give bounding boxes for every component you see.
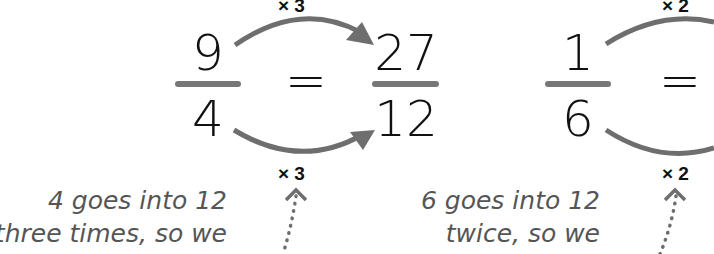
denominator-12: 12 [372, 94, 440, 144]
note-2-line-2: twice, so we [421, 217, 600, 250]
numerator-1: 1 [558, 28, 598, 78]
note-1-line-2: three times, so we [0, 217, 227, 250]
numerator-9: 9 [188, 28, 228, 78]
dotted-pointer-1 [283, 196, 296, 254]
note-1-line-1: 4 goes into 12 [0, 184, 227, 217]
note-2-line-1: 6 goes into 12 [421, 184, 600, 217]
top-multiplier-2: × 2 [662, 0, 689, 15]
equals-sign-2: = [658, 56, 702, 106]
note-1: 4 goes into 12 three times, so we [0, 184, 227, 250]
bottom-multiplier-1: × 3 [278, 164, 305, 183]
denominator-6: 6 [558, 94, 598, 144]
top-multiplier-1: × 3 [278, 0, 305, 15]
dotted-pointer-2 [660, 196, 676, 254]
bottom-arrow-2 [606, 130, 714, 154]
note-2: 6 goes into 12 twice, so we [421, 184, 600, 250]
equivalent-fractions-diagram: × 3 9 4 = 27 12 × 3 4 goes into 12 three… [0, 0, 714, 254]
top-arrow-2 [606, 19, 714, 44]
bottom-arrow-1 [234, 130, 362, 151]
equals-sign-1: = [284, 56, 328, 106]
numerator-27: 27 [372, 28, 440, 78]
denominator-4: 4 [188, 94, 228, 144]
bottom-multiplier-2: × 2 [662, 164, 689, 183]
top-arrow-1 [235, 19, 360, 45]
